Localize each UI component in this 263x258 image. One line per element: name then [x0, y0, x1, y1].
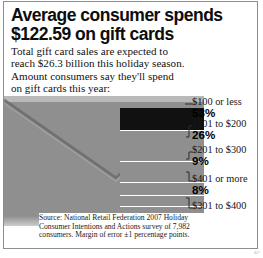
deck-line-1: Total gift card sales are expected to [11, 45, 207, 57]
headline-line-1: Average consumer spends [11, 5, 223, 25]
value-label-3: 8% [192, 184, 258, 196]
source-note: Source: National Retail Federation 2007 … [39, 213, 247, 241]
label-group-2: $201 to $300 9% [192, 144, 258, 167]
credit-line: AP [150, 250, 260, 255]
headline-line-2: $122.59 on gift cards [11, 25, 243, 44]
deck-line-4: on gift cards this year: [11, 82, 207, 94]
deck-line-2: reach $26.3 billion this holiday season. [11, 57, 207, 69]
deck-line-3: Amount consumers say they'll spend [11, 70, 207, 82]
label-group-3: $401 or more 8% [192, 173, 258, 196]
label-group-0: $100 or less 53% [192, 96, 258, 119]
label-group-1: $101 to $200 26% [192, 118, 258, 141]
value-label-2: 9% [192, 155, 258, 167]
infographic-root: Average consumer spends $122.59 on gift … [0, 0, 263, 258]
source-line-3: consumers. Margin of error ±1 percentage… [39, 231, 245, 240]
value-label-1: 26% [192, 129, 258, 141]
deck-text: Total gift card sales are expected to re… [11, 45, 207, 94]
page-title: Average consumer spends $122.59 on gift … [11, 6, 243, 43]
